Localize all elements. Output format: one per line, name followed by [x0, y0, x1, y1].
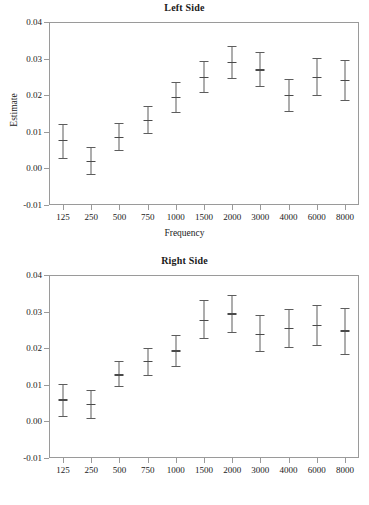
plot-area-right: -0.010.000.010.020.030.04125250500750100… — [49, 275, 359, 458]
data-point-marker — [200, 320, 209, 321]
x-axis-tick — [176, 458, 177, 463]
error-bar-cap — [312, 58, 321, 59]
y-axis-tick-label: 0.04 — [26, 270, 42, 280]
data-point-marker — [256, 334, 265, 335]
y-axis-tick — [44, 132, 49, 133]
y-axis-tick — [44, 22, 49, 23]
panel-title-right: Right Side — [0, 255, 369, 266]
x-axis-tick-label: 500 — [113, 212, 127, 222]
x-axis-tick-label: 8000 — [336, 465, 354, 475]
x-axis-tick — [63, 458, 64, 463]
data-point-marker — [59, 140, 68, 141]
x-axis-tick-label: 1500 — [195, 465, 213, 475]
error-bar-cap — [143, 106, 152, 107]
x-axis-tick — [289, 458, 290, 463]
panel-left-side: Left Side -0.010.000.010.020.030.0412525… — [0, 0, 369, 252]
error-bar-cap — [256, 86, 265, 87]
error-bar-cap — [59, 158, 68, 159]
y-axis-tick — [44, 348, 49, 349]
y-axis-tick — [44, 385, 49, 386]
error-bar-cap — [228, 295, 237, 296]
x-axis-tick — [91, 458, 92, 463]
y-axis-tick — [44, 205, 49, 206]
plot-area-left: -0.010.000.010.020.030.04125250500750100… — [49, 22, 359, 205]
data-point-marker — [284, 328, 293, 329]
y-axis-tick — [44, 59, 49, 60]
error-bar-cap — [143, 375, 152, 376]
data-point-marker — [87, 404, 96, 405]
error-bar-cap — [200, 338, 209, 339]
x-axis-tick-label: 2000 — [223, 212, 241, 222]
x-axis-tick — [148, 458, 149, 463]
error-bar-cap — [340, 354, 349, 355]
data-point-marker — [312, 77, 321, 78]
x-axis-tick-label: 250 — [85, 212, 99, 222]
figure-canvas: Left Side -0.010.000.010.020.030.0412525… — [0, 0, 369, 505]
y-axis-tick-label: 0.04 — [26, 17, 42, 27]
x-axis-tick-label: 4000 — [280, 212, 298, 222]
data-point-marker — [59, 399, 68, 400]
x-axis-tick-label: 750 — [141, 465, 155, 475]
error-bar-cap — [340, 100, 349, 101]
data-point-marker — [228, 62, 237, 63]
x-axis-tick-label: 6000 — [308, 212, 326, 222]
data-point-marker — [115, 137, 124, 138]
panel-title-left: Left Side — [0, 2, 369, 13]
data-point-marker — [87, 161, 96, 162]
x-axis-tick — [204, 205, 205, 210]
y-axis-tick-label: 0.00 — [26, 416, 42, 426]
x-axis-tick-label: 750 — [141, 212, 155, 222]
x-axis-tick — [232, 458, 233, 463]
x-axis-tick — [176, 205, 177, 210]
x-axis-title-left: Frequency — [0, 228, 369, 238]
y-axis-tick-label: -0.01 — [23, 200, 42, 210]
error-bar-cap — [59, 384, 68, 385]
error-bar-cap — [87, 418, 96, 419]
error-bar-cap — [143, 133, 152, 134]
data-point-marker — [143, 120, 152, 121]
error-bar-cap — [171, 366, 180, 367]
y-axis-title-left: Estimate — [9, 80, 19, 140]
x-axis-tick — [119, 205, 120, 210]
x-axis-tick-label: 250 — [85, 465, 99, 475]
error-bar-cap — [115, 150, 124, 151]
error-bar-cap — [256, 351, 265, 352]
error-bar-cap — [228, 78, 237, 79]
error-bar-cap — [87, 390, 96, 391]
error-bar-cap — [256, 52, 265, 53]
x-axis-tick — [317, 205, 318, 210]
y-axis-tick-label: -0.01 — [23, 453, 42, 463]
data-point-marker — [228, 313, 237, 314]
data-point-marker — [115, 374, 124, 375]
x-axis-tick-label: 4000 — [280, 465, 298, 475]
x-axis-tick-label: 3000 — [251, 212, 269, 222]
x-axis-tick — [119, 458, 120, 463]
x-axis-tick — [148, 205, 149, 210]
y-axis-tick — [44, 168, 49, 169]
y-axis-tick — [44, 95, 49, 96]
y-axis-tick-label: 0.01 — [26, 127, 42, 137]
data-point-marker — [340, 80, 349, 81]
error-bar-cap — [171, 82, 180, 83]
x-axis-tick — [317, 458, 318, 463]
error-bar-cap — [312, 95, 321, 96]
x-axis-tick — [289, 205, 290, 210]
error-bar-cap — [59, 416, 68, 417]
error-bar-cap — [340, 60, 349, 61]
error-bar — [204, 300, 205, 337]
x-axis-tick-label: 2000 — [223, 465, 241, 475]
data-point-marker — [143, 361, 152, 362]
error-bar-cap — [143, 348, 152, 349]
data-point-marker — [312, 325, 321, 326]
error-bar-cap — [115, 386, 124, 387]
error-bar-cap — [284, 347, 293, 348]
panel-right-side: Right Side -0.010.000.010.020.030.041252… — [0, 253, 369, 505]
x-axis-tick — [232, 205, 233, 210]
error-bar-cap — [115, 123, 124, 124]
y-axis-tick-label: 0.03 — [26, 307, 42, 317]
y-axis-tick-label: 0.00 — [26, 163, 42, 173]
error-bar-cap — [312, 305, 321, 306]
x-axis-tick — [345, 458, 346, 463]
y-axis-tick-label: 0.01 — [26, 380, 42, 390]
data-point-marker — [284, 95, 293, 96]
